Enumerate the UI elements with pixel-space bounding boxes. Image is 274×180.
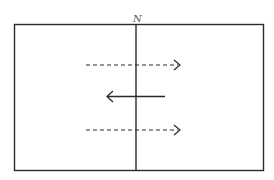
diagram-canvas: N xyxy=(0,0,274,180)
top-dashed-arrow xyxy=(86,60,180,70)
bottom-dashed-arrow xyxy=(86,125,180,135)
north-label: N xyxy=(132,13,143,24)
frame-rectangle xyxy=(15,25,264,171)
